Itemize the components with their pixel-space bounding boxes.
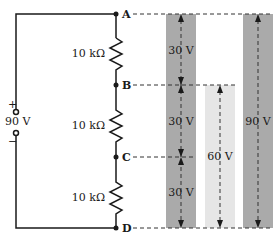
- node-a-label: A: [121, 8, 131, 21]
- resistor-3-label: 10 kΩ: [72, 191, 105, 204]
- drop-cd-label: 30 V: [168, 186, 194, 199]
- resistor-1-label: 10 kΩ: [72, 47, 105, 60]
- drop-bd-label: 60 V: [207, 150, 233, 163]
- node-d-label: D: [122, 222, 132, 235]
- node-b-label: B: [122, 79, 131, 92]
- node-c-label: C: [122, 151, 131, 164]
- node-b-dot: [114, 83, 119, 88]
- source-minus-sign: −: [8, 135, 17, 148]
- source-plus-sign: +: [8, 98, 17, 111]
- node-a-dot: [114, 12, 119, 17]
- drop-bc-label: 30 V: [168, 115, 194, 128]
- node-d-dot: [114, 226, 119, 231]
- drop-ad-label: 90 V: [245, 115, 271, 128]
- drop-ab-label: 30 V: [168, 44, 194, 57]
- voltage-divider-diagram: A B C D 10 kΩ 10 kΩ 10 kΩ + 90 V − 30 V …: [0, 0, 278, 239]
- resistor-3-icon: [110, 169, 122, 228]
- resistor-2-label: 10 kΩ: [72, 119, 105, 132]
- node-c-dot: [114, 155, 119, 160]
- resistor-1-icon: [110, 38, 122, 97]
- source-label: 90 V: [5, 115, 31, 128]
